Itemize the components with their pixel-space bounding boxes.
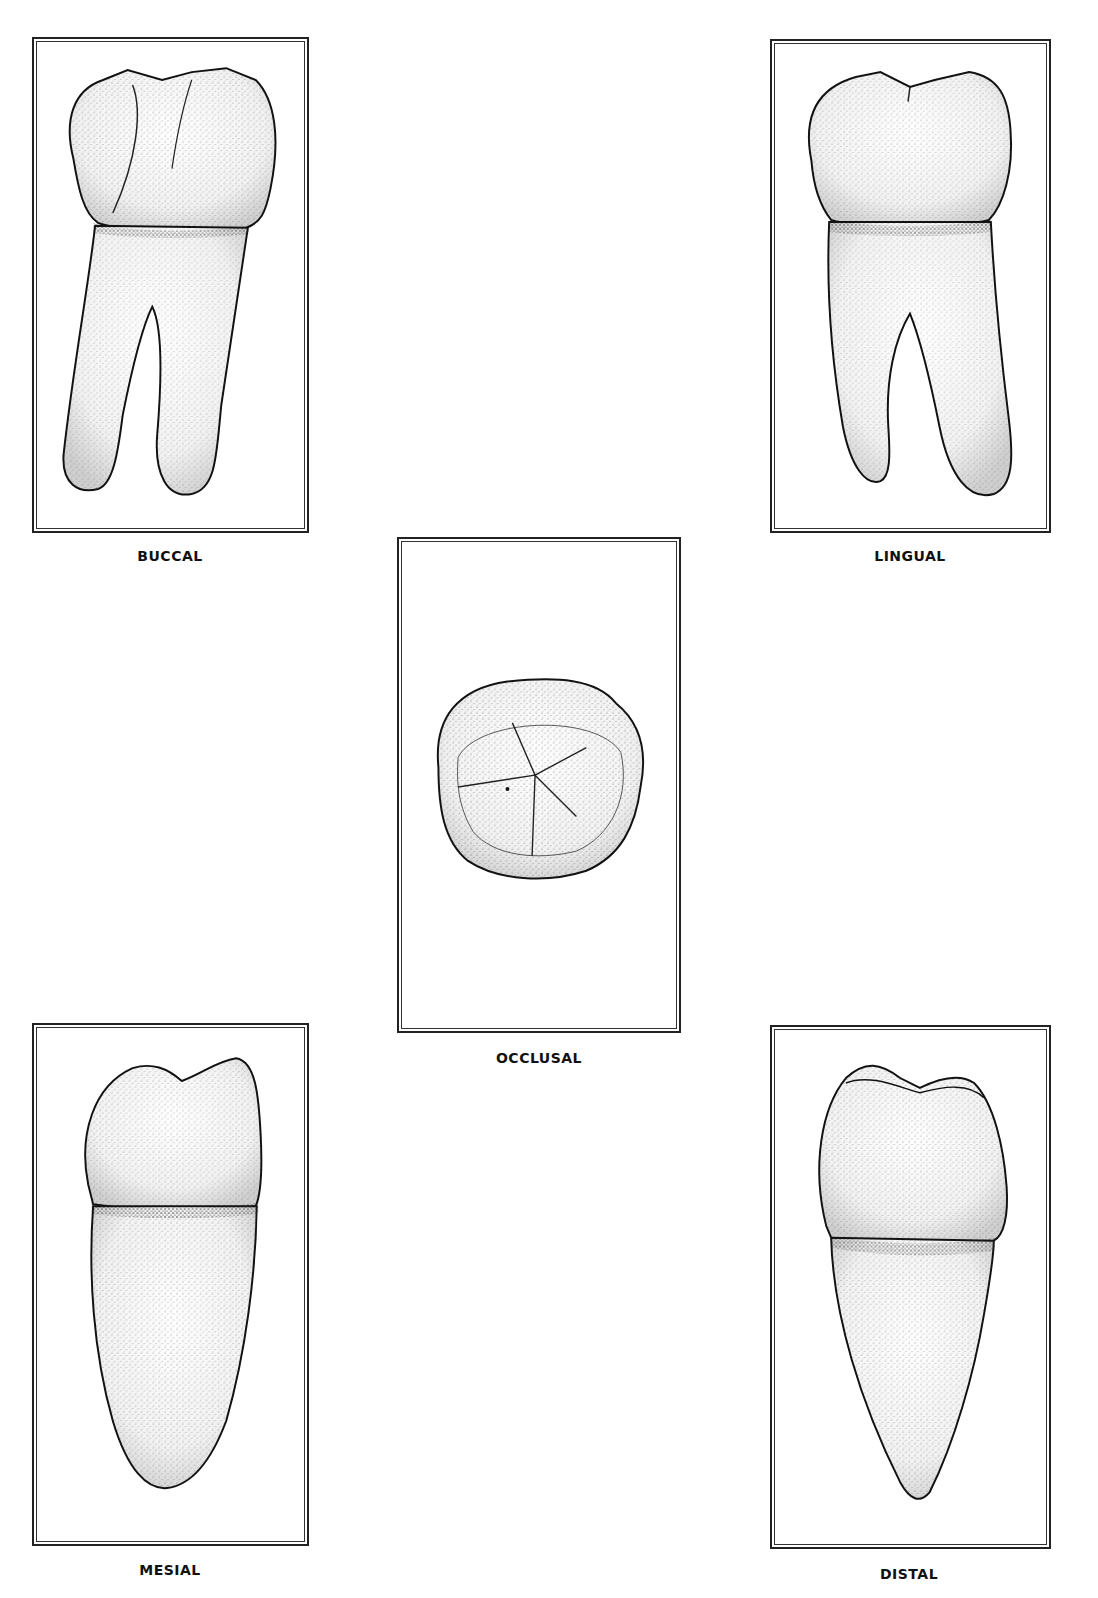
buccal-label: BUCCAL (70, 548, 270, 564)
occlusal-label: OCCLUSAL (439, 1050, 639, 1066)
occlusal-molar-illustration (399, 539, 679, 1031)
lingual-molar-illustration (772, 41, 1049, 531)
distal-view-frame (770, 1025, 1051, 1549)
lingual-label: LINGUAL (810, 548, 1010, 564)
mesial-label: MESIAL (70, 1562, 270, 1578)
mesial-molar-illustration (34, 1025, 307, 1544)
lingual-view-frame (770, 39, 1051, 533)
buccal-molar-illustration (34, 39, 307, 531)
buccal-view-frame (32, 37, 309, 533)
distal-label: DISTAL (809, 1566, 1009, 1582)
mesial-view-frame (32, 1023, 309, 1546)
occlusal-view-frame (397, 537, 681, 1033)
distal-molar-illustration (772, 1027, 1049, 1547)
